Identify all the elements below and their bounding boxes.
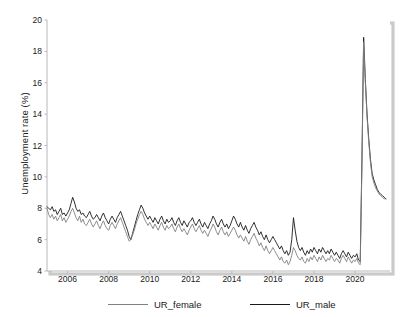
- y-axis-tick-6: 6: [16, 235, 42, 245]
- y-axis-tick-16: 16: [16, 78, 42, 88]
- y-axis-tick-14: 14: [16, 109, 42, 119]
- x-axis-tick-2008: 2008: [99, 274, 118, 284]
- y-axis-tick-18: 18: [16, 46, 42, 56]
- x-axis-tick-2010: 2010: [140, 274, 159, 284]
- x-axis-tick-2006: 2006: [58, 274, 77, 284]
- y-axis-tick-20: 20: [16, 15, 42, 25]
- plot-area: [0, 0, 409, 317]
- unemployment-rate-chart: Unemployment rate (%) 468101214161820 20…: [0, 0, 409, 317]
- legend-swatch-UR_female: [108, 304, 148, 305]
- y-axis-tick-10: 10: [16, 172, 42, 182]
- y-axis-tick-12: 12: [16, 141, 42, 151]
- y-axis-tick-4: 4: [16, 266, 42, 276]
- y-axis-tick-8: 8: [16, 203, 42, 213]
- x-axis-tick-2014: 2014: [222, 274, 241, 284]
- x-axis-tick-2012: 2012: [181, 274, 200, 284]
- x-axis-tick-2016: 2016: [263, 274, 282, 284]
- x-axis-tick-2020: 2020: [346, 274, 365, 284]
- legend-swatch-UR_male: [250, 304, 290, 305]
- legend-label-UR_male: UR_male: [296, 299, 336, 310]
- legend-label-UR_female: UR_female: [154, 299, 202, 310]
- y-axis-tick-group: 468101214161820: [14, 0, 42, 317]
- legend-item-UR_female[interactable]: UR_female: [108, 299, 202, 310]
- chart-legend: UR_femaleUR_male: [0, 297, 409, 317]
- x-axis-tick-2018: 2018: [305, 274, 324, 284]
- legend-item-UR_male[interactable]: UR_male: [250, 299, 336, 310]
